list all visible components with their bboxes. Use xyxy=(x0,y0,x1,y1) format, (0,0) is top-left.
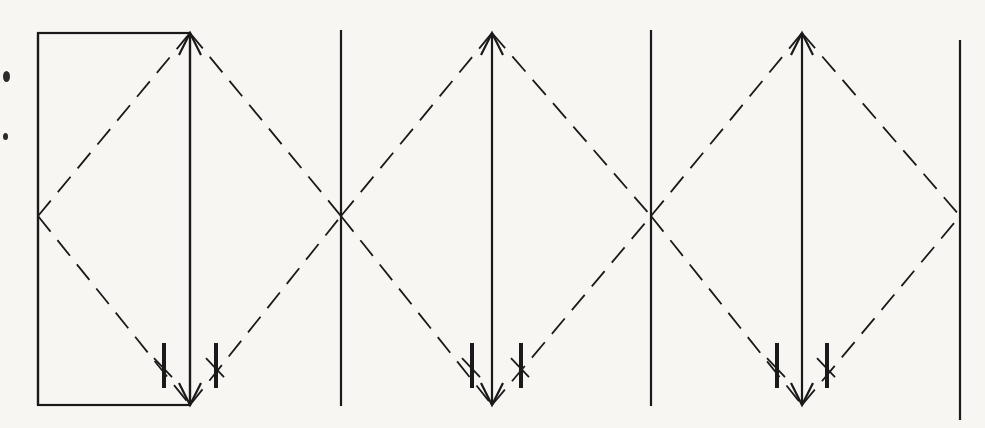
binding-mark-lower xyxy=(3,133,8,140)
diagram-canvas xyxy=(0,0,985,428)
binding-mark-upper xyxy=(3,71,10,82)
figure-container: Three-bay dashed diamond load-path diagr… xyxy=(0,0,985,428)
